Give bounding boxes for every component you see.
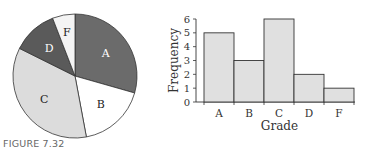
pie-label-b: B xyxy=(97,98,105,111)
figure-canvas: ABCDF 0123456ABCDFGradeFrequency xyxy=(0,0,367,157)
bar-f xyxy=(324,88,354,102)
x-tick-label: C xyxy=(275,107,283,119)
x-tick-label: B xyxy=(245,107,253,119)
x-axis-label: Grade xyxy=(261,119,298,133)
y-tick-label: 1 xyxy=(184,83,190,94)
pie-chart: ABCDF xyxy=(13,14,137,138)
y-tick-label: 2 xyxy=(184,69,190,80)
figure-caption: FIGURE 7.32 xyxy=(3,138,65,149)
y-tick-label: 4 xyxy=(184,41,190,52)
y-tick-label: 0 xyxy=(184,97,190,108)
y-axis-label: Frequency xyxy=(167,28,181,93)
pie-label-a: A xyxy=(101,47,111,60)
y-tick-label: 5 xyxy=(184,27,190,38)
bar-a xyxy=(204,33,234,102)
pie-label-d: D xyxy=(45,42,54,55)
x-tick-label: F xyxy=(335,107,342,119)
x-tick-label: A xyxy=(214,107,223,119)
bar-b xyxy=(234,61,264,103)
pie-label-f: F xyxy=(63,26,71,39)
x-tick-label: D xyxy=(305,107,313,119)
pie-label-c: C xyxy=(40,93,48,106)
y-tick-label: 6 xyxy=(184,14,190,25)
bar-d xyxy=(294,74,324,102)
y-tick-label: 3 xyxy=(184,55,190,66)
bar-c xyxy=(264,19,294,102)
bar-chart: 0123456ABCDFGradeFrequency xyxy=(167,14,355,134)
